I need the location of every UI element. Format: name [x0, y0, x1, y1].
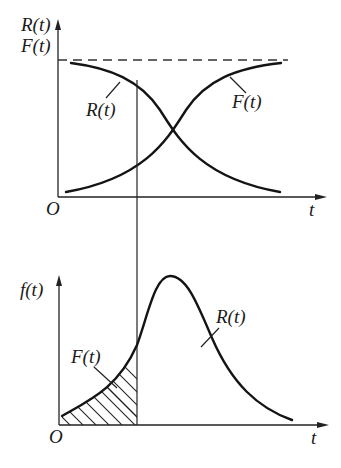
bottom-x-axis-arrow-icon — [317, 422, 329, 428]
reliability-diagram: R(t) F(t) R(t) F(t) O t — [0, 0, 341, 468]
top-y-label-f: F(t) — [20, 35, 51, 57]
f-area-leader — [94, 367, 117, 388]
top-r-curve-label: R(t) — [85, 99, 116, 121]
bottom-origin-label: O — [49, 426, 63, 447]
top-x-axis-arrow-icon — [315, 194, 327, 200]
bottom-y-axis-arrow-icon — [56, 275, 62, 286]
r-label-leader — [106, 82, 120, 98]
top-f-curve-label: F(t) — [231, 91, 262, 113]
top-plot: R(t) F(t) R(t) F(t) O t — [20, 14, 327, 220]
failure-curve — [66, 63, 281, 192]
bottom-y-label: f(t) — [20, 279, 43, 301]
bottom-r-area-label: R(t) — [215, 306, 246, 328]
top-x-label: t — [309, 199, 315, 220]
top-y-axis-arrow-icon — [55, 19, 61, 30]
bottom-x-label: t — [311, 427, 317, 448]
top-origin-label: O — [46, 198, 60, 219]
failure-area-hatch — [40, 292, 183, 430]
bottom-plot: f(t) F(t) R(t) O t — [20, 275, 329, 448]
bottom-f-area-label: F(t) — [70, 346, 101, 368]
top-y-label-r: R(t) — [20, 14, 51, 36]
